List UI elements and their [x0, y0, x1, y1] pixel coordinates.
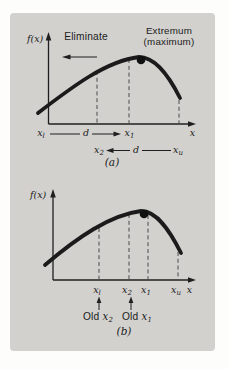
panel-b-xl-tick-label: xl	[93, 285, 101, 295]
panel-b-x-axis-arrowhead-icon	[188, 277, 196, 283]
panel-b-function-curve	[45, 211, 181, 265]
panel-a-eliminate-arrowhead-icon	[62, 54, 71, 59]
panel-a-eliminate-label: Eliminate	[64, 31, 108, 42]
panel-a-xl-sub: l	[43, 132, 45, 140]
panel-b-fx-axis-label: f(x)	[30, 190, 46, 200]
panel-a-fx-axis-label: f(x)	[27, 34, 43, 44]
panel-b-old-x1-prefix: Old	[122, 311, 141, 322]
panel-a-x-axis-arrowhead-icon	[188, 121, 196, 127]
panel-a-xu-sub: u	[178, 149, 183, 157]
panel-b-x-axis-end-label: x	[187, 285, 192, 295]
panel-a-graphics	[38, 32, 196, 153]
panel-a-x1-sub: 1	[130, 132, 134, 140]
panel-a-caption: (a)	[105, 157, 119, 168]
panel-a-row1-d-label: d	[83, 128, 89, 138]
panel-b-y-axis-arrowhead-icon	[50, 189, 56, 198]
panel-a-x-axis-end-label: x	[190, 128, 195, 138]
panel-b-old-x2-arrowhead-icon	[97, 297, 102, 304]
panel-b-old-x1-label: Old x1	[122, 311, 152, 325]
panel-a-x1-label: x1	[125, 128, 135, 138]
panel-b-x1-tick-label: x1	[141, 285, 151, 295]
panel-b-caption: (b)	[117, 326, 132, 337]
panel-b-extremum-dot	[140, 210, 149, 219]
panel-b-old-x2-prefix: Old	[83, 311, 102, 322]
panel-a-x2-sub: 2	[99, 149, 103, 157]
panel-b-old-x1-arrowhead-icon	[129, 297, 134, 304]
panel-b-old-x2-label: Old x2	[83, 311, 113, 325]
panel-a-extremum-label: Extremum (maximum)	[144, 26, 195, 47]
panel-b-xl-sub: l	[99, 289, 101, 297]
panel-a-extremum-label-line1: Extremum	[144, 26, 195, 37]
panel-a-row1-arrowhead-icon	[114, 132, 122, 137]
panel-a-row2-arrowhead-icon	[106, 148, 114, 153]
panel-a-y-axis-arrowhead-icon	[46, 32, 52, 41]
panel-a-row2-d-label: d	[133, 145, 139, 155]
panel-b-xu-sub: u	[176, 289, 181, 297]
figure-graphics	[0, 0, 229, 369]
panel-a-extremum-label-line2: (maximum)	[144, 37, 195, 48]
panel-a-extremum-dot	[137, 56, 146, 65]
panel-b-old-x1-sub: 1	[147, 316, 152, 324]
panel-a-function-curve	[38, 57, 180, 113]
panel-b-x2-tick-label: x2	[122, 285, 132, 295]
panel-a-xu-label: xu	[173, 145, 183, 155]
panel-b-x1-sub: 1	[146, 289, 150, 297]
panel-a-xl-label: xl	[37, 128, 45, 138]
panel-a-x2-label: x2	[94, 145, 104, 155]
panel-b-old-x2-sub: 2	[108, 316, 113, 324]
panel-b-xu-tick-label: xu	[171, 285, 181, 295]
panel-b-x2-sub: 2	[127, 289, 131, 297]
